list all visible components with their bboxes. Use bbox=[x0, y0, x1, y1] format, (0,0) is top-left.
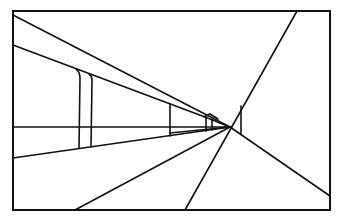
floor-line-left bbox=[75, 127, 230, 210]
picture-frame bbox=[13, 11, 330, 210]
floor-line-right bbox=[230, 127, 330, 196]
deck-edge bbox=[13, 127, 230, 158]
roof-bottom-edge bbox=[13, 45, 230, 127]
roof-top-edge bbox=[13, 15, 230, 127]
perspective-diagram bbox=[0, 0, 341, 224]
diagram-canvas bbox=[0, 0, 341, 224]
pillar-near-2 bbox=[89, 74, 92, 147]
pillar-near-1 bbox=[76, 69, 80, 148]
